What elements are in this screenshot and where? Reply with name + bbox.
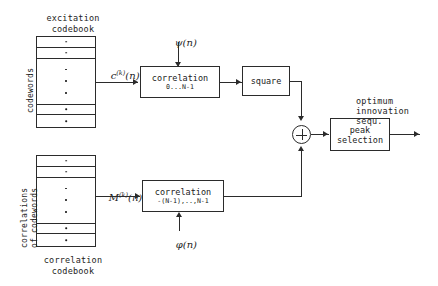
signal-label-excitation-output: c(k)(n): [98, 58, 140, 92]
wire-excitation-to-correlation: [96, 82, 138, 83]
signal-phi-arg: (n): [183, 239, 197, 250]
codebook-row: [37, 37, 95, 48]
arrowhead-sum-to-peak-selection: [323, 131, 328, 137]
signal-correlation-base: M: [109, 192, 119, 203]
correlation-codebook-side-label-line2: of codewords: [30, 188, 40, 248]
diagram-canvas: excitation codebook codewords c(k)(n) ψ(…: [0, 0, 438, 286]
output-label-line3: sequ.: [356, 116, 383, 126]
peak-selection-label-line1: peak: [350, 125, 370, 135]
wire-correlation-bottom-out: [224, 196, 302, 197]
correlation-top-range: 0...N-1: [166, 83, 194, 92]
codebook-row: [37, 224, 95, 235]
arrowhead-correlation-to-square: [236, 79, 241, 85]
codebook-row: [37, 167, 95, 178]
output-label-line1: optimum: [356, 96, 393, 106]
codebook-row-ellipsis: [37, 178, 95, 224]
square-block[interactable]: square: [242, 66, 290, 96]
correlation-top-block[interactable]: correlation 0...N-1: [140, 66, 220, 98]
signal-label-phi-input: φ(n): [163, 228, 197, 261]
correlation-bottom-label: correlation: [155, 187, 211, 197]
signal-label-psi-input: ψ(n): [162, 26, 197, 59]
excitation-codebook-table[interactable]: [36, 36, 96, 128]
arrowhead-output: [414, 131, 419, 137]
correlation-codebook-table[interactable]: [36, 155, 96, 247]
signal-psi-arg: (n): [183, 37, 197, 48]
arrowhead-correlation-bottom-into-sum: [298, 146, 304, 151]
correlation-codebook-caption-line2: codebook: [29, 266, 117, 276]
square-label: square: [251, 76, 282, 86]
codebook-row: [37, 156, 95, 167]
wire-phi-into-correlation: [179, 217, 180, 231]
arrowhead-excitation-to-correlation: [133, 79, 138, 85]
arrowhead-correlation-codebook-to-block: [135, 193, 140, 199]
correlation-bottom-block[interactable]: correlation -(N-1),..,N-1: [142, 180, 224, 212]
signal-excitation-superscript: (k): [116, 69, 125, 77]
signal-correlation-superscript: (k): [119, 191, 128, 199]
summing-junction[interactable]: [292, 125, 311, 144]
excitation-codebook-caption-line2: codebook: [36, 24, 110, 34]
wire-correlation-bottom-up-to-sum: [301, 150, 302, 196]
codebook-row: [37, 105, 95, 116]
correlation-codebook-side-label-line1: correlations: [20, 188, 30, 248]
wire-square-down-to-sum: [301, 81, 302, 119]
arrowhead-phi-into-correlation: [176, 212, 182, 217]
excitation-codebook-caption-line1: excitation: [36, 13, 110, 23]
codebook-row: [37, 234, 95, 246]
excitation-codebook-side-label: codewords: [26, 68, 36, 113]
output-label-line2: innovation: [356, 106, 409, 116]
correlation-top-label: correlation: [152, 73, 208, 83]
signal-phi-base: φ: [176, 239, 183, 250]
codebook-row: [37, 115, 95, 127]
wire-correlation-codebook-to-block: [96, 196, 140, 197]
arrowhead-square-into-sum: [298, 116, 304, 121]
codebook-row: [37, 48, 95, 59]
codebook-row-ellipsis: [37, 59, 95, 105]
peak-selection-label-line2: selection: [337, 135, 383, 145]
correlation-bottom-range: -(N-1),..,N-1: [157, 197, 209, 206]
correlation-codebook-caption-line1: correlation: [29, 255, 117, 265]
